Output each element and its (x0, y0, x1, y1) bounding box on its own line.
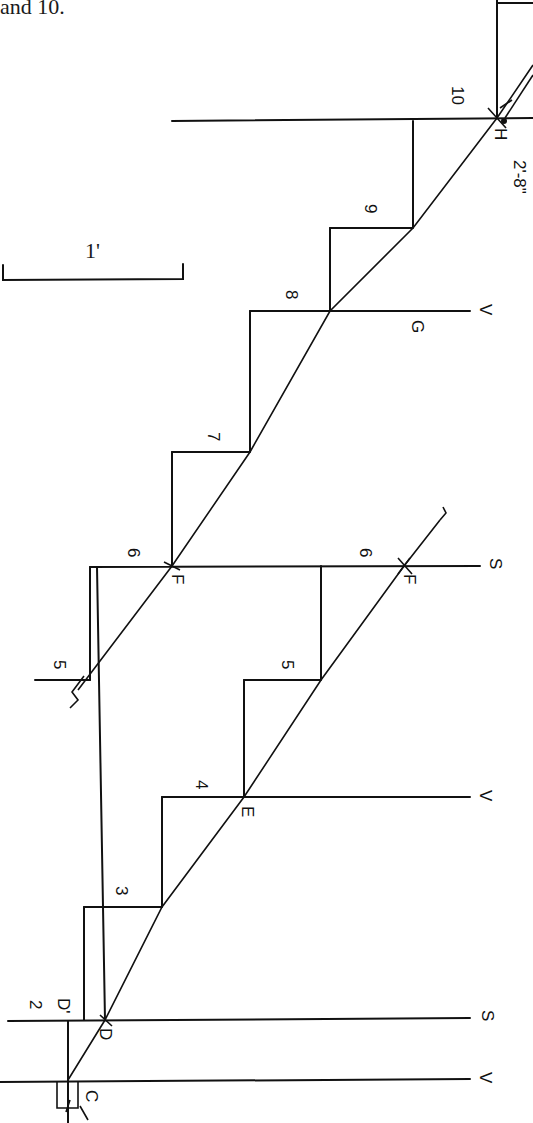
line-d (8, 1018, 470, 1021)
step-5-right-label: 5 (278, 660, 297, 669)
marker-v-e: V (476, 790, 495, 802)
stringer-parallel (505, 75, 533, 118)
step-2-label: 2 (26, 1000, 45, 1009)
point-d-label: D (96, 1028, 115, 1040)
stair-layout-diagram: 10 9 8 7 6 5 6 5 4 3 2 H 2'-8" G F F E D… (0, 0, 533, 1123)
point-e-label: E (238, 806, 257, 817)
scale-bar (3, 264, 183, 280)
line-h (172, 118, 533, 121)
step-9-label: 9 (361, 204, 380, 213)
break-mark-right (440, 507, 446, 520)
point-h-dot (501, 118, 507, 124)
step-7-label: 7 (204, 432, 223, 441)
stringer-line-upper (78, 65, 533, 690)
step-5-left-label: 5 (50, 660, 69, 669)
stringer-line-lower (68, 520, 440, 1080)
marker-v-c: V (476, 1072, 495, 1084)
left-verticals (90, 567, 105, 1020)
dimension-label: 2'-8" (510, 160, 529, 194)
step-3-label: 3 (112, 886, 131, 895)
step-7 (172, 311, 250, 452)
step-10-label: 10 (448, 86, 467, 105)
line-c (0, 1079, 470, 1082)
marker-s-d: S (478, 1010, 497, 1021)
point-g-label: G (408, 320, 427, 333)
point-h-label: H (491, 128, 510, 140)
point-d-prime-label: D' (54, 998, 73, 1014)
point-c-label: C (82, 1090, 101, 1102)
step-8-label: 8 (282, 290, 301, 299)
step-6-right-label: 6 (356, 548, 375, 557)
step-4-label: 4 (192, 780, 211, 789)
point-f-left-label: F (168, 574, 187, 584)
point-f-right-label: F (400, 574, 419, 584)
marker-s-f: S (486, 558, 505, 569)
line-f (90, 452, 480, 567)
step-6-label: 6 (124, 548, 143, 557)
marker-v-g: V (476, 304, 495, 316)
